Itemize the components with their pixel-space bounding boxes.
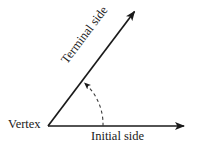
angle-diagram: Vertex Initial side Terminal side <box>0 0 200 148</box>
initial-side-label: Initial side <box>91 130 144 143</box>
angle-arc <box>85 83 104 126</box>
vertex-label: Vertex <box>8 118 41 131</box>
